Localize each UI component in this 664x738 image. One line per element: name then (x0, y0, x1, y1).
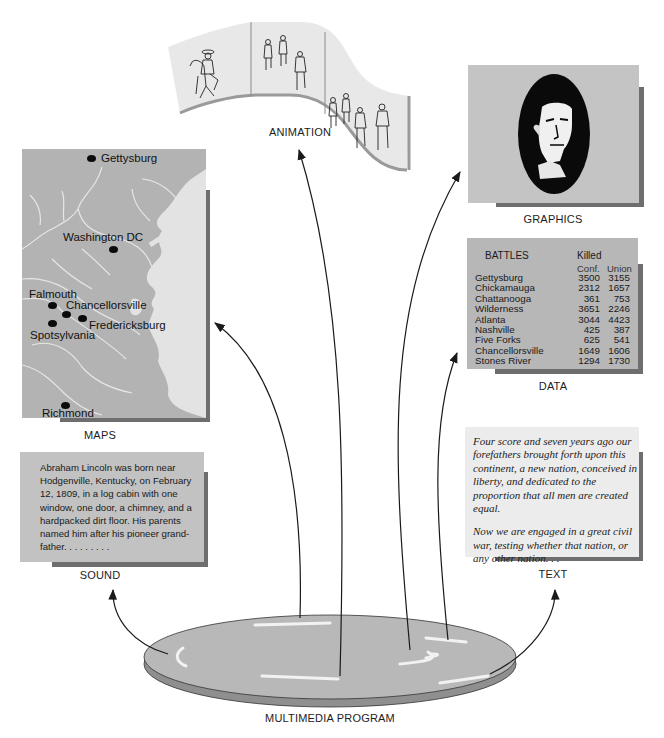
arrow-to-graphics (398, 172, 460, 650)
arrow-to-maps (215, 323, 300, 618)
arrow-to-data (438, 353, 457, 640)
multimedia-program-label: MULTIMEDIA PROGRAM (230, 712, 430, 724)
arrow-to-animation (299, 150, 342, 676)
multimedia-program-disk (0, 0, 664, 738)
